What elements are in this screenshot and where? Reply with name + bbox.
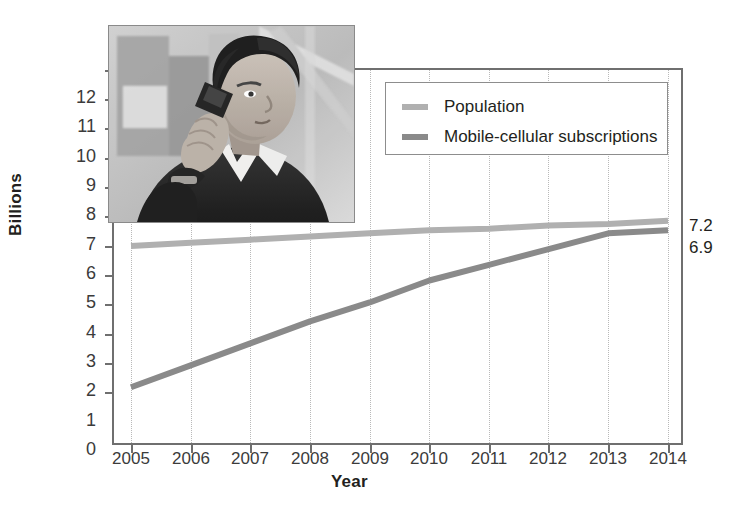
chart-container: Billions Year 12 11 10 9 8 7 6 5 4 3 2 1… [0,0,747,513]
y-tick-label-12: 12 [60,88,96,106]
legend-item-population: Population [402,92,667,122]
legend-swatch-mobile-cellular-subscriptions [402,134,428,140]
y-tickmark-6 [105,246,114,248]
y-tick-label-0: 0 [60,440,96,458]
y-tick-label-1: 1 [60,411,96,429]
y-tickmark-4 [105,304,114,306]
end-label-mobile-cellular-subscriptions: 6.9 [689,238,713,258]
legend-swatch-population [402,104,428,110]
photo-graphic [109,26,354,222]
y-tick-label-9: 9 [60,176,96,194]
y-tick-label-2: 2 [60,381,96,399]
legend-label-population: Population [444,97,524,117]
y-tick-label-5: 5 [60,293,96,311]
series-line-population [131,221,668,246]
y-tickmark-2 [105,363,114,365]
y-tick-label-7: 7 [60,235,96,253]
series-line-mobile-cellular-subscriptions [131,230,668,387]
x-axis-title: Year [331,472,368,492]
end-label-population: 7.2 [689,216,713,236]
y-tick-label-3: 3 [60,352,96,370]
y-tick-label-11: 11 [60,117,96,135]
y-tick-label-4: 4 [60,323,96,341]
y-tickmark-1 [105,392,114,394]
y-tick-label-6: 6 [60,264,96,282]
y-tick-label-8: 8 [60,205,96,223]
mobile-phone-user-photo [108,25,355,223]
y-tickmark-3 [105,334,114,336]
y-tick-label-10: 10 [60,147,96,165]
chart-legend: Population Mobile-cellular subscriptions [385,82,668,155]
legend-item-mobile-cellular-subscriptions: Mobile-cellular subscriptions [402,122,667,152]
y-axis-title: Billions [6,116,26,236]
legend-label-mobile-cellular-subscriptions: Mobile-cellular subscriptions [444,127,658,147]
y-tickmark-5 [105,275,114,277]
